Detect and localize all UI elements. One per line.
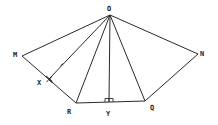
segment-oy [109, 15, 110, 102]
label-r: R [67, 108, 72, 116]
label-y: Y [106, 110, 111, 118]
segment-ox [49, 15, 110, 79]
label-x: X [37, 79, 42, 87]
geometry-diagram: O M N X R Y Q [0, 0, 218, 125]
label-o: O [107, 5, 111, 13]
segment-rq [76, 101, 145, 103]
label-n: N [200, 50, 204, 58]
label-q: Q [150, 104, 154, 112]
segment-qn [145, 54, 198, 101]
label-m: M [13, 51, 17, 59]
